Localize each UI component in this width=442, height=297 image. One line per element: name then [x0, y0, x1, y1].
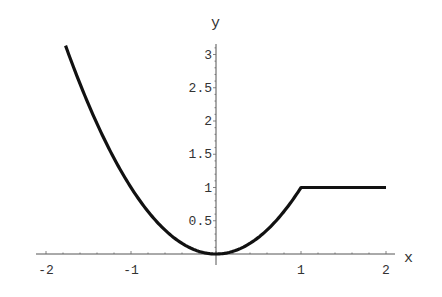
x-tick-label: -2 — [38, 263, 54, 278]
y-tick-label: 2 — [204, 114, 212, 129]
x-axis-label: x — [404, 250, 413, 267]
function-curve — [66, 46, 386, 254]
x-tick-label: -1 — [123, 263, 139, 278]
x-tick-label: 2 — [382, 263, 390, 278]
x-tick-label: 1 — [297, 263, 305, 278]
y-tick-label: 1 — [204, 181, 212, 196]
y-tick-label: 1.5 — [189, 147, 212, 162]
y-tick-label: 2.5 — [189, 81, 212, 96]
y-tick-label: 3 — [204, 48, 212, 63]
y-axis-label: y — [211, 15, 220, 32]
plot: -2-112 x 0.511.522.53 y — [0, 0, 442, 297]
y-tick-label: 0.5 — [189, 214, 212, 229]
y-axis: 0.511.522.53 y — [189, 15, 220, 265]
